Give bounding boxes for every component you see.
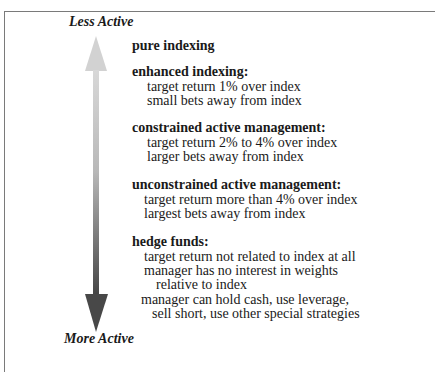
detail-line: manager can hold cash, use leverage,: [141, 292, 349, 307]
arrow-shaft: [93, 70, 99, 296]
detail-line: small bets away from index: [147, 93, 302, 108]
detail-line: sell short, use other special strategies: [152, 306, 360, 321]
detail-line: target return not related to index at al…: [144, 249, 356, 264]
detail-line: relative to index: [156, 277, 247, 292]
detail-line: manager has no interest in weights: [144, 263, 338, 278]
detail-line: target return 1% over index: [147, 79, 301, 94]
detail-line: larger bets away from index: [147, 149, 304, 164]
category-unconstrained-active: unconstrained active management:: [132, 177, 341, 192]
category-enhanced-indexing: enhanced indexing:: [132, 64, 248, 79]
arrowhead-down-icon: [85, 294, 108, 332]
category-pure-indexing: pure indexing: [132, 38, 215, 53]
detail-line: largest bets away from index: [144, 206, 305, 221]
detail-line: target return more than 4% over index: [144, 192, 358, 207]
category-hedge-funds: hedge funds:: [132, 234, 209, 249]
detail-line: target return 2% to 4% over index: [147, 135, 337, 150]
arrowhead-up-icon: [85, 36, 107, 71]
category-constrained-active: constrained active management:: [132, 120, 326, 135]
